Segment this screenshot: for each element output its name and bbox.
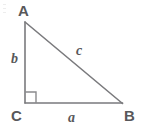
- side-c-hypotenuse-line: [25, 22, 123, 104]
- side-label-c: c: [76, 44, 82, 58]
- side-label-a: a: [68, 111, 75, 125]
- right-triangle-figure: A B C a b c: [0, 0, 141, 129]
- right-angle-marker-icon: [25, 92, 36, 103]
- vertex-label-b: B: [124, 108, 135, 123]
- vertex-label-a: A: [18, 3, 29, 18]
- vertex-label-c: C: [11, 108, 22, 123]
- side-label-b: b: [11, 52, 18, 66]
